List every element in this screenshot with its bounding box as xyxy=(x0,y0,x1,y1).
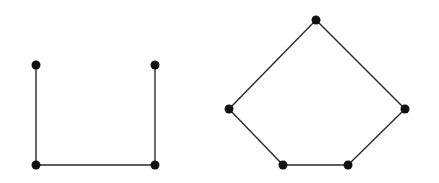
edge xyxy=(348,109,405,165)
node xyxy=(32,161,41,170)
node xyxy=(32,61,41,70)
edge xyxy=(316,20,405,109)
node xyxy=(151,61,160,70)
cycle-graph-pentagon xyxy=(225,16,410,170)
node xyxy=(401,105,410,114)
node xyxy=(344,161,353,170)
node xyxy=(279,161,288,170)
diagram-canvas xyxy=(0,0,439,183)
node xyxy=(225,105,234,114)
path-graph-u-shape xyxy=(32,61,160,170)
edge xyxy=(229,20,316,109)
edge xyxy=(229,109,283,165)
node xyxy=(312,16,321,25)
node xyxy=(151,161,160,170)
